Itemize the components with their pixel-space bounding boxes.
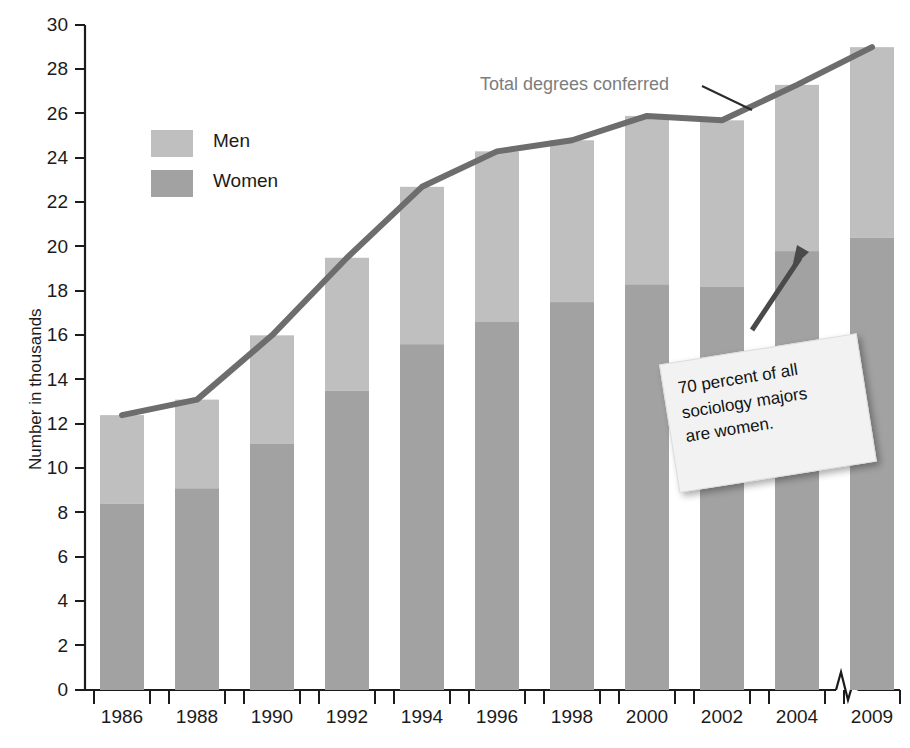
- y-axis-tick-label: 8: [28, 502, 68, 524]
- x-axis-tick-label: 1986: [82, 706, 162, 728]
- x-axis-tick-label: 1992: [307, 706, 387, 728]
- legend-label-men: Men: [213, 130, 250, 152]
- bar-segment-women: [100, 504, 144, 690]
- bar-segment-women: [475, 322, 519, 690]
- bar-segment-men: [550, 140, 594, 302]
- x-axis-tick-label: 1998: [532, 706, 612, 728]
- bar-segment-women: [250, 444, 294, 690]
- x-axis-tick-label: 1996: [457, 706, 537, 728]
- y-axis-tick-label: 2: [28, 635, 68, 657]
- x-axis-tick-label: 2004: [757, 706, 837, 728]
- bar-segment-men: [475, 151, 519, 322]
- bar-segment-men: [775, 85, 819, 251]
- y-axis-tick-label: 18: [28, 280, 68, 302]
- bar-segment-women: [625, 284, 669, 690]
- y-axis-tick-label: 14: [28, 369, 68, 391]
- y-axis-tick-label: 24: [28, 147, 68, 169]
- x-axis-tick-label: 1994: [382, 706, 462, 728]
- bar-segment-women: [325, 391, 369, 690]
- bar-segment-men: [625, 116, 669, 284]
- y-axis-tick-label: 28: [28, 58, 68, 80]
- bar-segment-women: [550, 302, 594, 690]
- sticky-note-text: 70 percent of all sociology majors are w…: [676, 350, 857, 450]
- annotation-leader-line: [702, 86, 752, 110]
- y-axis-tick-label: 10: [28, 457, 68, 479]
- y-axis-tick-label: 16: [28, 324, 68, 346]
- bar-segment-men: [700, 120, 744, 286]
- y-axis-tick-label: 4: [28, 590, 68, 612]
- x-axis-ticks: [94, 690, 900, 704]
- x-axis-tick-label: 2002: [682, 706, 762, 728]
- bar-segment-men: [850, 47, 894, 238]
- legend-swatch-women: [151, 170, 193, 197]
- y-axis-tick-label: 30: [28, 14, 68, 36]
- bar-segment-women: [400, 344, 444, 690]
- bar-segment-men: [175, 400, 219, 489]
- y-axis-tick-label: 20: [28, 236, 68, 258]
- total-degrees-annotation-label: Total degrees conferred: [480, 74, 669, 95]
- bar-segment-women: [175, 488, 219, 690]
- legend-label-women: Women: [213, 170, 278, 192]
- legend-swatch-men: [151, 130, 193, 157]
- y-axis-ticks: [75, 25, 85, 690]
- y-axis-tick-label: 12: [28, 413, 68, 435]
- x-axis-tick-label: 1990: [232, 706, 312, 728]
- bar-segment-men: [400, 187, 444, 344]
- chart-container: Number in thousands: [0, 0, 910, 748]
- x-axis-tick-label: 2000: [607, 706, 687, 728]
- x-axis-tick-label: 2009: [832, 706, 910, 728]
- y-axis-tick-label: 22: [28, 191, 68, 213]
- y-axis-tick-label: 26: [28, 103, 68, 125]
- bar-segment-men: [100, 415, 144, 504]
- x-axis-tick-label: 1988: [157, 706, 237, 728]
- y-axis-tick-label: 0: [28, 679, 68, 701]
- y-axis-tick-label: 6: [28, 546, 68, 568]
